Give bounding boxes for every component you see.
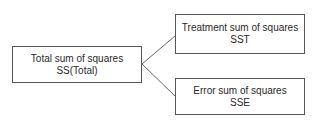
- total-symbol: SS(Total): [56, 65, 97, 77]
- treatment-label: Treatment sum of squares: [182, 22, 298, 34]
- total-sum-of-squares-box: Total sum of squares SS(Total): [12, 46, 142, 83]
- treatment-sum-of-squares-box: Treatment sum of squares SST: [175, 14, 305, 54]
- total-label: Total sum of squares: [31, 53, 123, 65]
- treatment-symbol: SST: [230, 34, 249, 46]
- error-symbol: SSE: [230, 97, 250, 109]
- error-label: Error sum of squares: [193, 85, 286, 97]
- error-sum-of-squares-box: Error sum of squares SSE: [175, 78, 305, 115]
